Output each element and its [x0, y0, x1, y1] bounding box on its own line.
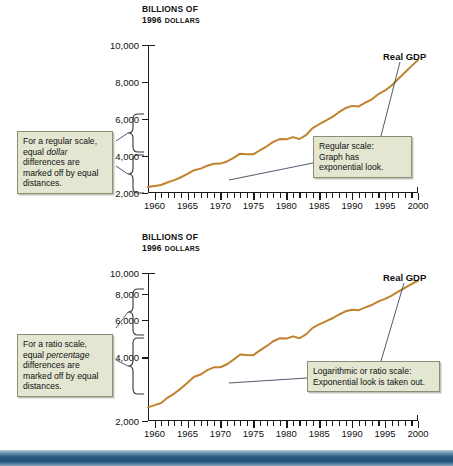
x-axis-major-tick	[220, 421, 221, 428]
callout-ratio-scale-note: Logarithmic or ratio scale: Exponential …	[307, 361, 440, 392]
x-axis-minor-tick	[405, 421, 406, 426]
x-axis-minor-tick	[293, 421, 294, 426]
x-axis-minor-tick	[174, 421, 175, 426]
x-axis-minor-tick	[306, 421, 307, 426]
y-axis-title-line2-bottom: 1996DOLLARS	[142, 243, 200, 254]
y-axis-tick-label: 10,000	[110, 268, 139, 279]
gdp-line-ratio-scale	[148, 273, 418, 421]
x-axis-minor-tick	[299, 421, 300, 426]
x-axis-minor-tick	[227, 421, 228, 426]
x-axis-minor-tick	[332, 421, 333, 426]
x-axis-major-tick	[188, 421, 189, 428]
brace-group-log	[112, 288, 146, 414]
x-axis-tick-label: 1975	[243, 428, 264, 439]
x-axis-minor-tick	[346, 421, 347, 426]
x-axis-tick-label: 1980	[276, 428, 297, 439]
x-axis-minor-tick	[201, 421, 202, 426]
chart-panel-ratio-scale: BILLIONS OF 1996DOLLARS 2,0004,0006,0008…	[0, 0, 453, 466]
x-axis-minor-tick	[392, 421, 393, 426]
x-axis-minor-tick	[313, 421, 314, 426]
x-axis-major-tick	[385, 421, 386, 428]
x-axis-minor-tick	[161, 421, 162, 426]
x-axis-tick-label: 1990	[342, 428, 363, 439]
x-axis-major-tick	[418, 421, 419, 428]
x-axis-tick-label: 2000	[407, 428, 428, 439]
x-axis-major-tick	[319, 421, 320, 428]
x-axis-minor-tick	[234, 421, 235, 426]
x-axis-tick-label: 1960	[144, 428, 165, 439]
x-axis-minor-tick	[181, 421, 182, 426]
x-axis-tick-label: 1965	[177, 428, 198, 439]
x-axis-minor-tick	[240, 421, 241, 426]
x-axis-minor-tick	[194, 421, 195, 426]
x-axis-minor-tick	[411, 421, 412, 426]
x-axis-tick-label: 1995	[374, 428, 395, 439]
y-axis-tick	[142, 421, 148, 422]
x-axis-minor-tick	[339, 421, 340, 426]
footer-color-band	[0, 450, 453, 466]
x-axis-tick-label: 1970	[210, 428, 231, 439]
x-axis-minor-tick	[359, 421, 360, 426]
x-axis-minor-tick	[168, 421, 169, 426]
x-axis-minor-tick	[247, 421, 248, 426]
x-axis-major-tick	[286, 421, 287, 428]
callout-note-line1: Logarithmic or ratio scale:	[313, 366, 434, 377]
x-axis-minor-tick	[273, 421, 274, 426]
x-axis-minor-tick	[280, 421, 281, 426]
x-axis-major-tick	[253, 421, 254, 428]
x-axis-minor-tick	[267, 421, 268, 426]
x-axis-major-tick	[155, 421, 156, 428]
x-axis-major-tick	[352, 421, 353, 428]
x-axis-minor-tick	[365, 421, 366, 426]
x-axis-minor-tick	[398, 421, 399, 426]
x-axis-tick-label: 1985	[309, 428, 330, 439]
y-axis-title-line1-bottom: BILLIONS OF	[142, 232, 198, 243]
y-axis-tick-label: 2,000	[115, 416, 139, 427]
series-label-real-gdp-bottom: Real GDP	[383, 272, 426, 283]
x-axis-minor-tick	[326, 421, 327, 426]
x-axis-minor-tick	[260, 421, 261, 426]
x-axis-minor-tick	[214, 421, 215, 426]
plot-area-ratio-scale: 2,0004,0006,0008,00010,000 1960196519701…	[148, 273, 418, 421]
callout-note-line2: Exponential look is taken out.	[313, 377, 434, 388]
x-axis-minor-tick	[207, 421, 208, 426]
x-axis-minor-tick	[372, 421, 373, 426]
x-axis-minor-tick	[378, 421, 379, 426]
callout-ratio-scale-definition: For a ratio scale, equal percentage diff…	[17, 334, 113, 397]
